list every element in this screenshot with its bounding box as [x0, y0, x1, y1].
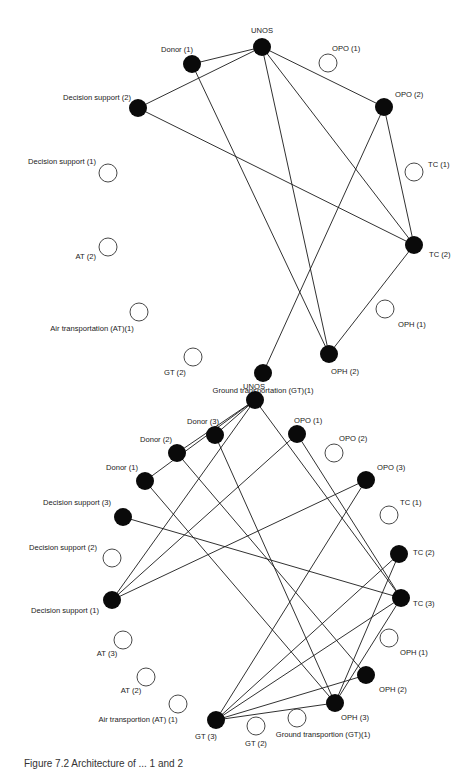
active-node-circle-icon: [183, 55, 201, 73]
node-label: OPO (2): [395, 90, 424, 99]
node-label: Decision support (3): [43, 498, 111, 507]
inactive-node-circle-icon: [169, 695, 187, 713]
edge-donor1-oph3: [145, 481, 335, 703]
inactive-node-circle-icon: [103, 549, 121, 567]
inactive-node-circle-icon: [325, 444, 343, 462]
edge-tc3-gt3: [216, 598, 401, 720]
edge-unos-donor1: [192, 47, 262, 64]
node-label: TC (2): [413, 548, 435, 557]
active-node-circle-icon: [253, 38, 271, 56]
edge-unos-tc2: [262, 47, 414, 245]
node-ds3: Decision support (3): [43, 498, 132, 526]
active-node-circle-icon: [246, 391, 264, 409]
node-at2: AT (2): [76, 238, 117, 261]
node-oph1: OPH (1): [376, 300, 426, 329]
figure-caption: Figure 7.2 Architecture of ... 1 and 2: [24, 758, 183, 769]
edge-unos-ds2: [138, 47, 262, 108]
node-oph1: OPH (1): [380, 629, 428, 657]
node-label: AT (3): [97, 649, 118, 658]
node-label: OPH (1): [400, 648, 428, 657]
edge-unos-ds1: [112, 400, 255, 600]
node-label: Decision support (1): [28, 157, 96, 166]
inactive-node-circle-icon: [380, 506, 398, 524]
active-node-circle-icon: [405, 236, 423, 254]
node-label: TC (3): [413, 599, 435, 608]
active-node-circle-icon: [207, 711, 225, 729]
inactive-node-circle-icon: [99, 164, 117, 182]
node-donor3: Donor (3): [187, 417, 224, 444]
node-gt3: GT (3): [195, 711, 225, 741]
node-label: UNOS: [251, 26, 273, 35]
node-label: Air transportion (AT) (1): [98, 715, 178, 724]
node-opo1: OPO (1): [319, 44, 361, 72]
node-oph2: OPH (2): [357, 666, 407, 694]
node-unos: UNOS: [243, 382, 265, 409]
active-node-circle-icon: [129, 99, 147, 117]
active-node-circle-icon: [357, 666, 375, 684]
active-node-circle-icon: [206, 426, 224, 444]
node-label: Ground transportion (GT)(1): [276, 730, 371, 739]
edge-unos-oph2: [262, 47, 329, 354]
node-label: Decision support (1): [31, 606, 99, 615]
active-node-circle-icon: [288, 425, 306, 443]
node-tc1: TC (1): [405, 160, 450, 181]
node-label: GT (2): [245, 739, 267, 748]
node-ds1: Decision support (1): [28, 157, 117, 182]
node-label: Air transportation (AT)(1): [50, 324, 134, 333]
edge-tc2-gt3: [216, 554, 399, 720]
node-label: UNOS: [243, 382, 265, 391]
node-oph2: OPH (2): [320, 345, 359, 376]
node-label: TC (1): [428, 160, 450, 169]
edge-opo1-ds1: [112, 434, 297, 600]
edge-opo3-ds1: [112, 480, 366, 600]
node-tc2: TC (2): [405, 236, 451, 259]
edge-donor2-oph2: [177, 453, 366, 675]
inactive-node-circle-icon: [319, 54, 337, 72]
node-label: TC (2): [429, 250, 451, 259]
node-label: OPH (1): [398, 320, 426, 329]
node-label: GT (2): [164, 368, 186, 377]
node-at3: AT (3): [97, 631, 132, 658]
node-label: OPH (2): [331, 367, 359, 376]
active-node-circle-icon: [392, 589, 410, 607]
active-node-circle-icon: [114, 508, 132, 526]
node-label: OPO (1): [332, 44, 361, 53]
edge-unos-tc3: [255, 400, 401, 598]
active-node-circle-icon: [375, 98, 393, 116]
node-opo2: OPO (2): [375, 90, 424, 116]
inactive-node-circle-icon: [380, 629, 398, 647]
active-node-circle-icon: [326, 694, 344, 712]
active-node-circle-icon: [254, 364, 272, 382]
active-node-circle-icon: [168, 444, 186, 462]
node-opo3: OPO (3): [357, 463, 406, 489]
edge-layer-top: [138, 47, 414, 373]
node-label: Decision support (2): [63, 93, 131, 102]
node-label: GT (3): [195, 732, 217, 741]
node-tc3: TC (3): [392, 589, 435, 608]
node-tc2: TC (2): [390, 545, 435, 563]
node-label: OPH (2): [379, 685, 407, 694]
node-label: OPO (1): [294, 416, 323, 425]
edge-tc2-oph2: [329, 245, 414, 354]
active-node-circle-icon: [136, 472, 154, 490]
network-graph-bottom: UNOSDonor (3)OPO (1)Donor (2)OPO (2)Dono…: [29, 382, 435, 748]
node-label: OPH (3): [341, 713, 369, 722]
node-unos: UNOS: [251, 26, 273, 56]
inactive-node-circle-icon: [137, 668, 155, 686]
node-ds1: Decision support (1): [31, 591, 121, 615]
node-oph3: OPH (3): [326, 694, 369, 722]
inactive-node-circle-icon: [130, 303, 148, 321]
inactive-node-circle-icon: [114, 631, 132, 649]
node-label: AT (2): [76, 252, 97, 261]
active-node-circle-icon: [357, 471, 375, 489]
node-label: Donor (3): [187, 417, 220, 426]
node-donor1: Donor (1): [106, 463, 154, 490]
node-label: AT (2): [121, 686, 142, 695]
active-node-circle-icon: [103, 591, 121, 609]
edge-donor3-oph3: [215, 435, 335, 703]
inactive-node-circle-icon: [405, 163, 423, 181]
node-label: OPO (3): [377, 463, 406, 472]
node-ds2: Decision support (2): [63, 93, 147, 117]
inactive-node-circle-icon: [376, 300, 394, 318]
